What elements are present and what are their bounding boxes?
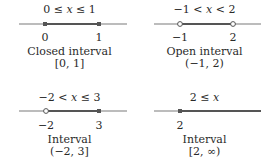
tick-label: 0 bbox=[42, 31, 49, 44]
interval-notation: (−2, 3] bbox=[0, 145, 139, 158]
panel-half-open-interval: −2 < x ≤ 3 −2 3 Interval (−2, 3] bbox=[0, 88, 139, 165]
interval-notation: [0, 1] bbox=[0, 57, 139, 70]
closed-endpoint-icon bbox=[178, 109, 182, 113]
tick-label: −2 bbox=[38, 119, 54, 132]
panel-unbounded-interval: 2 ≤ x 2 Interval [2, ∞) bbox=[135, 88, 274, 165]
panel-closed-interval: 0 ≤ x ≤ 1 0 1 Closed interval [0, 1] bbox=[0, 0, 139, 82]
closed-endpoint-icon bbox=[97, 22, 101, 26]
tick-label: 2 bbox=[177, 119, 184, 132]
closed-endpoint-icon bbox=[97, 109, 101, 113]
tick-label: −1 bbox=[172, 31, 188, 44]
panel-open-interval: −1 < x < 2 −1 2 Open interval (−1, 2) bbox=[135, 0, 274, 82]
open-endpoint-icon bbox=[44, 109, 49, 114]
interval-notation: [2, ∞) bbox=[135, 145, 274, 158]
tick-label: 2 bbox=[230, 31, 237, 44]
closed-endpoint-icon bbox=[43, 22, 47, 26]
interval-notation: (−1, 2) bbox=[135, 57, 274, 70]
open-endpoint-icon bbox=[178, 22, 183, 27]
tick-label: 1 bbox=[96, 31, 103, 44]
open-endpoint-icon bbox=[231, 22, 236, 27]
tick-label: 3 bbox=[96, 119, 103, 132]
